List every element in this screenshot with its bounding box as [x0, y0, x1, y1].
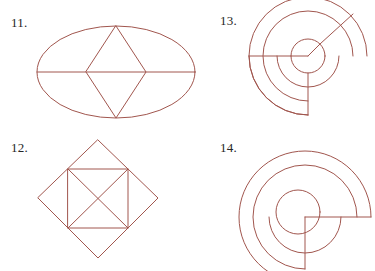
figure-drawing-13 [190, 0, 375, 135]
figure-cell-13: 13. [190, 0, 375, 135]
center-circle [276, 190, 320, 234]
figure-drawing-14 [190, 135, 375, 271]
spoke-inner-diagonal [308, 44, 320, 56]
figure-drawing-11 [0, 0, 190, 135]
worksheet-page: 11. 13. [0, 0, 375, 271]
figure-cell-14: 14. [190, 135, 375, 271]
figure-cell-12: 12. [0, 135, 190, 271]
spoke-diagonal-upper-right [320, 14, 353, 44]
figure-drawing-12 [0, 135, 190, 271]
figure-cell-11: 11. [0, 0, 190, 135]
